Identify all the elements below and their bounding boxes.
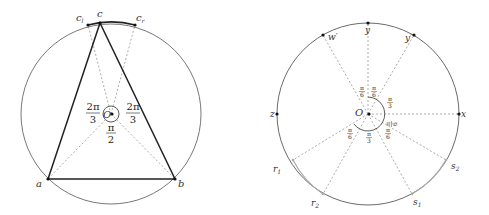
angle-pi6-bottom-right: π 6 [385,126,391,140]
label-O: O [103,109,111,120]
label-b: b [178,178,184,189]
svg-text:6: 6 [372,91,376,98]
point-a [46,177,49,180]
angle-pi3-right: π 3 [387,95,393,109]
right-light-points [292,159,448,196]
label-x: x [461,109,466,119]
label-s1: s1 [413,197,421,208]
svg-text:π: π [388,95,392,102]
svg-text:π: π [360,84,364,91]
point-cr [133,23,136,26]
label-y: y [364,25,371,35]
diagram-canvas: c cl cr a b O 2π 3 2π 3 π 2 [0,0,489,215]
right-dashed-radii [293,23,459,194]
arc-r1-r2 [293,160,323,194]
svg-text:2π: 2π [87,101,100,112]
angle-pi6-top-right: π 6 [371,84,377,98]
point-s2 [445,159,448,162]
point-r2 [322,193,325,196]
svg-text:3: 3 [90,114,96,125]
point-s1 [411,193,414,196]
point-r1 [292,159,295,162]
svg-text:π: π [372,84,376,91]
label-z: z [269,109,275,119]
svg-text:2: 2 [108,134,114,145]
label-c: c [97,8,103,19]
point-w-prime [321,33,324,36]
label-w-prime: w′ [328,32,338,42]
point-y-prime [412,33,415,36]
point-z [275,112,278,115]
svg-text:π: π [367,130,371,137]
point-c [98,21,101,24]
angle-right: 2π 3 [126,101,140,125]
svg-text:3: 3 [388,102,392,109]
angle-bottom: π 2 [106,122,116,145]
point-cl [86,23,89,26]
angle-pi6-bottom-left: π 6 [347,126,353,140]
point-b [173,177,176,180]
angle-pi6-top-left: π 6 [359,84,365,98]
right-figure: y w′ y′ z x O r1 r2 s1 s2 π 6 π 6 π 3 [269,21,466,209]
label-cl: cl [76,12,84,24]
svg-text:6: 6 [348,133,352,140]
point-O-right [367,112,370,115]
label-s2: s2 [451,161,460,172]
svg-text:π: π [108,122,115,133]
arc-s1-s2 [412,160,446,194]
svg-text:3: 3 [130,114,136,125]
angle-pi3-bottom: π 3 [366,130,372,144]
label-O-right: O [355,107,363,118]
svg-text:3: 3 [367,137,371,144]
label-y-prime: y′ [404,33,412,43]
svg-text:π: π [348,126,352,133]
angle-left: 2π 3 [86,101,100,125]
label-a: a [36,178,42,189]
label-r1: r1 [273,164,281,175]
triangle-abc [48,23,175,179]
arc-cl-cr [88,22,135,25]
label-r2: r2 [311,198,319,209]
svg-text:2π: 2π [127,101,140,112]
left-figure: c cl cr a b O 2π 3 2π 3 π 2 [21,8,201,204]
svg-text:6: 6 [360,91,364,98]
label-cr: cr [136,12,146,24]
svg-text:6: 6 [391,122,398,126]
svg-text:6: 6 [386,133,390,140]
svg-text:π: π [386,126,390,133]
